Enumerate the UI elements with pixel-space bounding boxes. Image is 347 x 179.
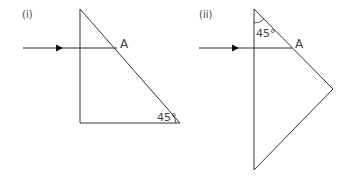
prism-diagrams: (i) A 45° (ii) A 45° [0,0,347,179]
arrow-right-icon [56,45,63,52]
angle-arc-ii [254,19,264,23]
prism-i-triangle [80,9,180,123]
diagram-i-label: (i) [22,9,33,20]
diagram-ii: (ii) A 45° [199,9,333,170]
diagram-i: (i) A 45° [22,9,180,124]
angle-label-ii: 45° [256,27,276,40]
angle-label-i: 45° [157,111,177,124]
point-a-label-i: A [120,37,129,51]
diagram-ii-label: (ii) [199,9,212,20]
arrow-right-icon [232,45,239,52]
point-a-label-ii: A [295,37,304,51]
